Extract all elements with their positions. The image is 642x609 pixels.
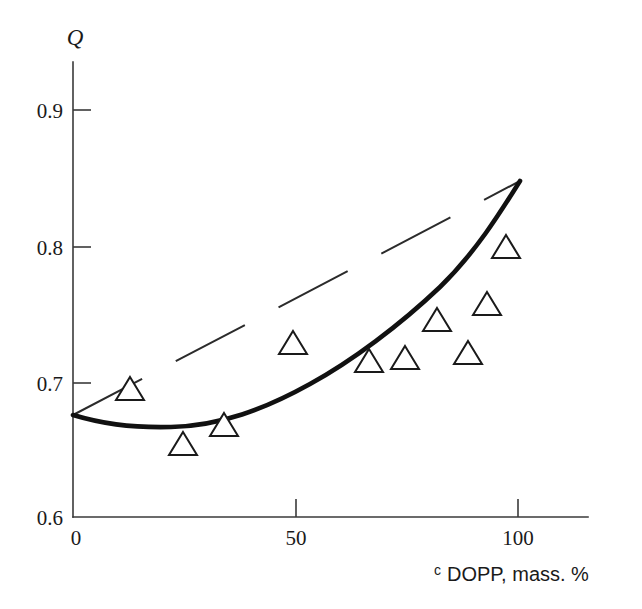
chart-figure: 0.9 0.8 0.7 0.6 0 50 100 Q c DOPP, mass.…	[0, 0, 642, 609]
y-tick-label-0.7: 0.7	[37, 372, 63, 396]
additivity-reference-line	[73, 181, 520, 415]
x-axis-ticks	[296, 499, 518, 517]
data-point-marker	[279, 331, 307, 354]
data-point-marker	[454, 341, 482, 364]
y-tick-label-0.9: 0.9	[37, 99, 63, 123]
fitted-curve	[73, 181, 520, 427]
y-axis-ticks	[73, 110, 91, 383]
y-axis-title: Q	[67, 25, 84, 50]
y-tick-label-0.6: 0.6	[37, 506, 63, 530]
data-point-marker	[391, 346, 419, 369]
x-axis-title-prefix: c	[434, 562, 441, 578]
y-tick-label-0.8: 0.8	[37, 236, 63, 260]
x-tick-label-50: 50	[286, 526, 307, 550]
x-axis-title-main: DOPP, mass. %	[447, 563, 589, 585]
data-point-marker	[473, 292, 501, 315]
x-tick-label-0: 0	[71, 526, 82, 550]
data-point-marker	[169, 432, 197, 455]
data-point-marker	[492, 235, 520, 258]
chart-plot-area: 0.9 0.8 0.7 0.6 0 50 100 Q c DOPP, mass.…	[0, 0, 642, 609]
x-tick-label-100: 100	[502, 526, 534, 550]
data-point-marker	[423, 308, 451, 331]
